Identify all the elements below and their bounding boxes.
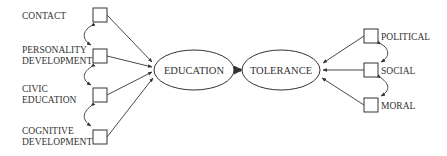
label-cognitive: COGNITIVE	[22, 126, 74, 136]
box-contact	[93, 8, 107, 22]
label-development-2: DEVELOPMENT	[22, 137, 92, 147]
correlation-arrow-icon	[84, 106, 91, 126]
path-diagram: CONTACT PERSONALITY DEVELOPMENT CIVIC ED…	[0, 0, 447, 156]
label-development-1: DEVELOPMENT	[22, 56, 92, 66]
label-civic: CIVIC	[22, 84, 48, 94]
path-arrow-icon	[322, 78, 364, 105]
path-arrow-icon	[107, 78, 153, 137]
label-contact: CONTACT	[22, 11, 66, 21]
box-cognitive-development	[93, 130, 107, 144]
path-arrow-icon	[107, 56, 152, 67]
indicator-moral: MORAL	[364, 98, 416, 112]
indicator-personality-development: PERSONALITY DEVELOPMENT	[22, 45, 107, 66]
path-arrow-icon	[107, 15, 152, 62]
label-education-2: EDUCATION	[22, 95, 76, 105]
indicator-civic-education: CIVIC EDUCATION	[22, 84, 107, 105]
left-correlations	[84, 26, 91, 126]
label-political: POLITICAL	[381, 32, 430, 42]
path-arrow-icon	[323, 36, 364, 63]
correlation-arrow-icon	[381, 78, 388, 96]
left-indicators: CONTACT PERSONALITY DEVELOPMENT CIVIC ED…	[22, 8, 107, 147]
indicator-contact: CONTACT	[22, 8, 107, 22]
node-tolerance: TOLERANCE	[242, 50, 320, 90]
correlation-arrow-icon	[84, 26, 91, 45]
indicator-social: SOCIAL	[364, 63, 416, 77]
label-tolerance: TOLERANCE	[250, 65, 312, 76]
label-education: EDUCATION	[164, 65, 224, 76]
node-education: EDUCATION	[154, 50, 234, 90]
right-paths	[322, 36, 364, 105]
correlation-arrow-icon	[381, 44, 388, 62]
box-personality-development	[93, 49, 107, 63]
label-social: SOCIAL	[381, 66, 416, 76]
box-social	[364, 63, 378, 77]
correlation-arrow-icon	[84, 67, 91, 85]
left-paths	[107, 15, 153, 137]
label-personality: PERSONALITY	[22, 45, 87, 55]
right-indicators: POLITICAL SOCIAL MORAL	[364, 29, 430, 112]
box-moral	[364, 98, 378, 112]
box-civic-education	[93, 88, 107, 102]
path-arrow-icon	[107, 72, 152, 95]
box-political	[364, 29, 378, 43]
label-moral: MORAL	[381, 101, 416, 111]
indicator-political: POLITICAL	[364, 29, 430, 43]
indicator-cognitive-development: COGNITIVE DEVELOPMENT	[22, 126, 107, 147]
